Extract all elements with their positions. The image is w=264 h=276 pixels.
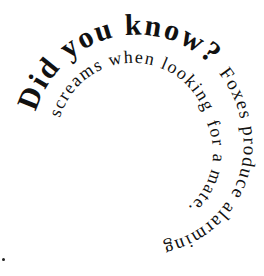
stray-dot-mark	[2, 258, 5, 261]
spiral-line-inner: screams when looking for a mate.	[45, 47, 229, 220]
did-you-know-spiral-graphic: Did you know? Foxes produce alarming scr…	[0, 0, 264, 276]
spiral-svg: Did you know? Foxes produce alarming scr…	[0, 0, 264, 276]
